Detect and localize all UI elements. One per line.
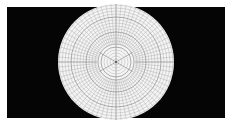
polar-grid-disc <box>58 4 174 120</box>
center-point <box>115 61 117 63</box>
polar-grid-diagram <box>0 0 242 125</box>
